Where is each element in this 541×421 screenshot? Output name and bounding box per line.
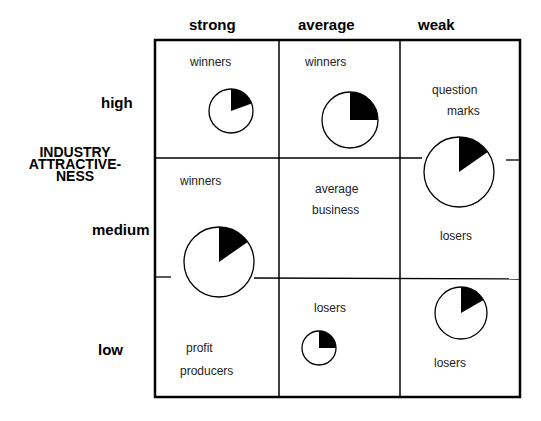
cell-label: producers bbox=[180, 364, 233, 378]
cell-label: marks bbox=[447, 104, 480, 118]
y-axis-title: INDUSTRY ATTRACTIVE- NESS bbox=[20, 146, 130, 182]
row-header-high: high bbox=[101, 94, 133, 111]
cell-label: winners bbox=[180, 174, 221, 188]
cell-label: business bbox=[312, 203, 359, 217]
cell-label: question bbox=[432, 83, 477, 97]
pie-average-high bbox=[322, 92, 378, 148]
cell-label: winners bbox=[305, 55, 346, 69]
cell-label: losers bbox=[314, 301, 346, 315]
pie-weak-low bbox=[435, 287, 487, 339]
pie-average-low bbox=[302, 331, 336, 365]
pie-strong-high bbox=[209, 89, 253, 133]
pie-slice bbox=[350, 92, 378, 120]
pie-weak-high-medium bbox=[424, 137, 494, 207]
pie-strong-medium-low bbox=[184, 227, 254, 297]
column-header-weak: weak bbox=[418, 16, 455, 33]
cell-label: winners bbox=[190, 55, 231, 69]
pie-slice bbox=[319, 331, 336, 348]
column-header-strong: strong bbox=[189, 16, 236, 33]
cell-label: losers bbox=[434, 356, 466, 370]
cell-label: profit bbox=[186, 341, 213, 355]
column-header-average: average bbox=[298, 16, 355, 33]
cell-label: losers bbox=[440, 229, 472, 243]
row-header-low: low bbox=[98, 341, 123, 358]
row-header-medium: medium bbox=[92, 221, 150, 238]
cell-label: average bbox=[315, 182, 358, 196]
